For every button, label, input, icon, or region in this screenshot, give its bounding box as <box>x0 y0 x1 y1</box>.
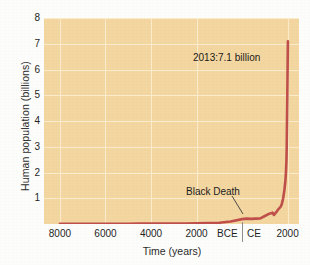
x-tick-label-2000: 2000 <box>268 229 308 239</box>
bce-ce-divider <box>242 222 243 242</box>
population-chart-figure: Human population (billions) 87654321 800… <box>0 0 310 265</box>
x-tick-label-6000: 6000 <box>85 229 125 239</box>
y-tick-label-4: 4 <box>14 116 40 126</box>
y-tick-label-5: 5 <box>14 90 40 100</box>
y-tick-label-6: 6 <box>14 65 40 75</box>
y-tick-label-3: 3 <box>14 142 40 152</box>
x-tick-label-8000: 8000 <box>40 229 80 239</box>
annotation-black-death: Black Death <box>186 186 240 197</box>
plot-area <box>44 18 299 224</box>
y-tick-label-1: 1 <box>14 193 40 203</box>
x-axis-title: Time (years) <box>44 245 300 257</box>
population-curve <box>44 18 299 224</box>
annotation-population-2013: 2013:7.1 billion <box>193 52 260 63</box>
y-tick-label-7: 7 <box>14 39 40 49</box>
y-axis-tick-labels: 87654321 <box>14 0 40 265</box>
y-tick-label-2: 2 <box>14 168 40 178</box>
x-tick-label-4000: 4000 <box>131 229 171 239</box>
y-tick-label-8: 8 <box>14 13 40 23</box>
